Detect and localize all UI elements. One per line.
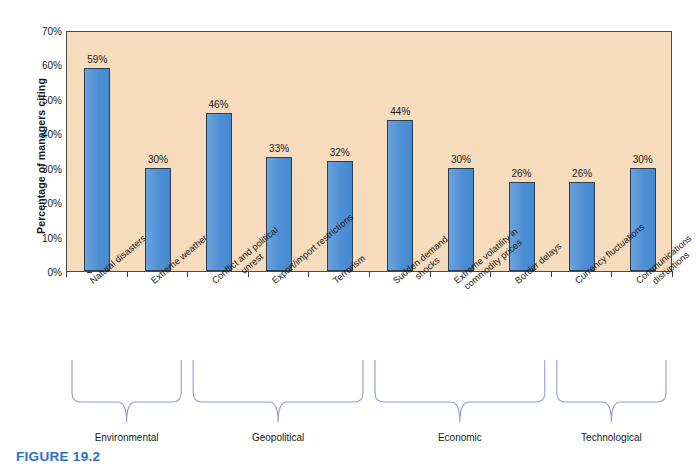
x-tick-mark — [369, 272, 370, 277]
bar-value-label: 32% — [330, 147, 350, 158]
group-brackets — [0, 360, 691, 430]
y-tick-label: 50% — [28, 94, 62, 105]
bar-value-label: 30% — [148, 154, 168, 165]
group-bracket — [193, 360, 363, 422]
bar-value-label: 44% — [390, 106, 410, 117]
y-tick-label: 10% — [28, 232, 62, 243]
x-tick-mark — [127, 272, 128, 277]
group-label: Geopolitical — [252, 432, 304, 443]
bar-value-label: 26% — [511, 168, 531, 179]
figure-caption: FIGURE 19.2 — [16, 449, 100, 464]
x-tick-mark — [611, 272, 612, 277]
x-tick-mark — [551, 272, 552, 277]
plot-area: 59%30%46%33%32%44%30%26%26%30% — [66, 31, 672, 272]
bar-value-label: 26% — [572, 168, 592, 179]
group-bracket — [375, 360, 545, 422]
group-bracket — [72, 360, 181, 422]
group-label: Technological — [581, 432, 642, 443]
y-tick-label: 30% — [28, 163, 62, 174]
y-tick-label: 40% — [28, 129, 62, 140]
group-label: Environmental — [95, 432, 159, 443]
bar-value-label: 46% — [208, 99, 228, 110]
bar — [569, 182, 595, 272]
x-tick-mark — [308, 272, 309, 277]
bar — [84, 68, 110, 271]
y-tick-label: 60% — [28, 60, 62, 71]
y-tick-label: 0% — [28, 267, 62, 278]
bar-value-label: 59% — [87, 54, 107, 65]
group-label: Economic — [438, 432, 482, 443]
x-tick-mark — [187, 272, 188, 277]
bar-value-label: 30% — [451, 154, 471, 165]
bar — [145, 168, 171, 271]
bar — [206, 113, 232, 271]
x-tick-mark — [66, 272, 67, 277]
bar-value-label: 30% — [633, 154, 653, 165]
bar — [630, 168, 656, 271]
y-tick-label: 20% — [28, 198, 62, 209]
bar — [387, 120, 413, 271]
group-bracket — [557, 360, 666, 422]
y-tick-label: 70% — [28, 26, 62, 37]
y-tick-mark — [87, 272, 92, 273]
bar-value-label: 33% — [269, 143, 289, 154]
